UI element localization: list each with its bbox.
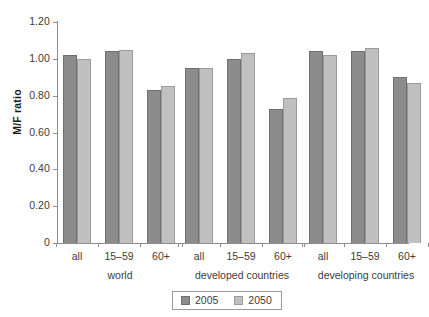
x-tick-mark [178, 243, 179, 247]
x-group-label: developing countries [318, 269, 414, 281]
x-category-label: all [194, 250, 205, 262]
bar-2005 [393, 77, 407, 243]
y-tick-label: 0 [44, 236, 50, 248]
bar-2050 [323, 55, 337, 243]
x-category-label: 15–59 [226, 250, 255, 262]
y-tick-label: 1.20 [29, 15, 50, 27]
y-tick-label: 0.20 [29, 199, 50, 211]
bar-2005 [227, 59, 241, 243]
bar-2050 [119, 50, 133, 243]
x-tick-mark [304, 243, 305, 247]
bar-2050 [241, 53, 255, 243]
x-category-label: 60+ [274, 250, 292, 262]
bar-2005 [105, 51, 119, 243]
x-tick-mark [262, 243, 263, 247]
plot-area [57, 22, 409, 243]
legend-entry-2005[interactable]: 2005 [181, 295, 218, 306]
bar-2005 [309, 51, 323, 243]
y-axis-tick: 0 [0, 243, 57, 244]
x-tick-mark [56, 243, 57, 247]
x-category-label: 15–59 [350, 250, 379, 262]
bar-2005 [63, 55, 77, 243]
legend-entry-2050[interactable]: 2050 [234, 295, 271, 306]
y-axis-tick: 0.40 [0, 169, 57, 170]
legend-label-2050: 2050 [248, 295, 271, 306]
legend: 2005 2050 [172, 291, 282, 310]
y-axis-tick: 1.20 [0, 22, 57, 23]
x-axis-line [57, 243, 409, 244]
x-tick-mark [182, 243, 183, 247]
bar-2050 [365, 48, 379, 243]
y-tick-label: 0.60 [29, 126, 50, 138]
bar-2005 [351, 51, 365, 243]
y-axis-tick: 0.60 [0, 133, 57, 134]
legend-label-2005: 2005 [195, 295, 218, 306]
y-tick-label: 1.00 [29, 52, 50, 64]
bar-2050 [161, 86, 175, 243]
y-tick-label: 0.40 [29, 162, 50, 174]
y-axis-tick: 1.00 [0, 59, 57, 60]
bar-2005 [269, 109, 283, 243]
x-tick-mark [302, 243, 303, 247]
bar-2050 [407, 83, 421, 243]
legend-swatch-icon-2005 [181, 296, 190, 305]
x-category-label: 15–59 [104, 250, 133, 262]
bar-2005 [147, 90, 161, 243]
x-group-label: world [107, 269, 132, 281]
x-tick-mark [98, 243, 99, 247]
x-category-label: all [318, 250, 329, 262]
bar-2050 [199, 68, 213, 243]
legend-swatch-icon-2050 [234, 296, 243, 305]
x-category-label: all [72, 250, 83, 262]
bar-2050 [77, 59, 91, 243]
x-tick-mark [220, 243, 221, 247]
x-category-label: 60+ [152, 250, 170, 262]
y-axis-tick: 0.20 [0, 206, 57, 207]
x-group-label: developed countries [195, 269, 289, 281]
y-tick-label: 0.80 [29, 89, 50, 101]
x-category-label: 60+ [398, 250, 416, 262]
bar-2050 [283, 98, 297, 243]
x-tick-mark [344, 243, 345, 247]
x-tick-mark [386, 243, 387, 247]
y-axis-tick: 0.80 [0, 96, 57, 97]
bar-2005 [185, 68, 199, 243]
x-tick-mark [140, 243, 141, 247]
y-axis-title: M/F ratio [11, 72, 23, 152]
